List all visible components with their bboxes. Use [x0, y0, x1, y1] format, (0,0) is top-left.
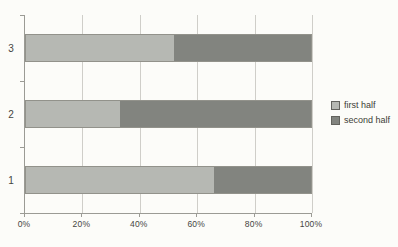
x-axis-tick	[24, 213, 25, 217]
chart: first halfsecond half 3210%20%40%60%80%1…	[0, 0, 398, 247]
legend: first halfsecond half	[331, 100, 390, 125]
bar-segment-second-half	[174, 35, 311, 61]
legend-swatch	[331, 101, 340, 110]
bar-segment-second-half	[214, 167, 311, 193]
category-band	[25, 15, 312, 81]
stacked-bar	[25, 166, 312, 194]
legend-swatch	[331, 116, 340, 125]
x-axis-tick-label: 40%	[130, 219, 148, 229]
y-axis-tick	[20, 81, 24, 82]
x-axis-tick	[196, 213, 197, 217]
y-axis-label: 2	[2, 109, 20, 120]
category-band	[25, 81, 312, 147]
y-axis-tick	[20, 213, 24, 214]
bar-segment-first-half	[26, 35, 174, 61]
y-axis-tick	[20, 147, 24, 148]
x-axis-tick	[311, 213, 312, 217]
x-axis-tick-label: 100%	[300, 219, 323, 229]
stacked-bar	[25, 34, 312, 62]
x-axis-tick-label: 20%	[73, 219, 91, 229]
y-axis-label: 1	[2, 175, 20, 186]
y-axis-tick	[20, 15, 24, 16]
legend-entry: second half	[331, 115, 390, 125]
category-band	[25, 147, 312, 213]
bar-segment-second-half	[120, 101, 311, 127]
x-axis-tick	[254, 213, 255, 217]
bar-segment-first-half	[26, 101, 120, 127]
bar-segment-first-half	[26, 167, 214, 193]
x-axis-tick-label: 80%	[245, 219, 263, 229]
x-axis-tick	[139, 213, 140, 217]
stacked-bar	[25, 100, 312, 128]
legend-label: first half	[344, 100, 376, 110]
x-axis-tick-label: 60%	[187, 219, 205, 229]
gridline	[312, 15, 313, 213]
legend-label: second half	[344, 115, 390, 125]
y-axis-label: 3	[2, 43, 20, 54]
legend-entry: first half	[331, 100, 390, 110]
x-axis-tick	[81, 213, 82, 217]
plot-area	[24, 15, 312, 214]
x-axis-tick-label: 0%	[18, 219, 31, 229]
